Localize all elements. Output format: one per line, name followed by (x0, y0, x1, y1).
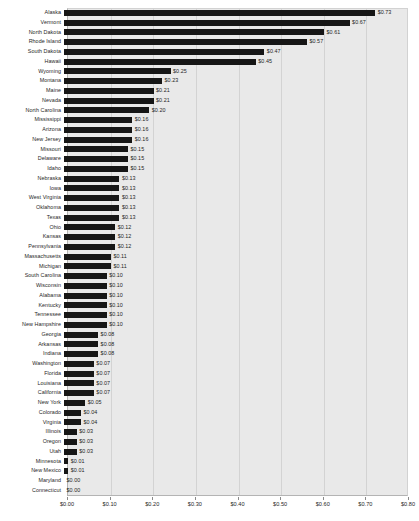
bar-cell: $0.12 (64, 223, 419, 233)
bar-row: Minnesota$0.01 (0, 457, 419, 467)
bar-cell: $0.20 (64, 106, 419, 116)
bar-row: Massachusetts$0.11 (0, 252, 419, 262)
bar-value-label: $0.25 (171, 69, 187, 74)
category-label: Washington (0, 361, 64, 366)
bar-value-label: $0.10 (107, 283, 123, 288)
bar (64, 390, 94, 396)
bar (64, 244, 115, 250)
bar (64, 234, 115, 240)
bar (64, 419, 81, 425)
bar-cell: $0.11 (64, 252, 419, 262)
bar-cell: $0.15 (64, 164, 419, 174)
bar-cell: $0.21 (64, 96, 419, 106)
bar-cell: $0.21 (64, 86, 419, 96)
bar (64, 127, 132, 133)
bar-row: New Mexico$0.01 (0, 466, 419, 476)
bar (64, 107, 149, 113)
bar (64, 254, 111, 260)
bar-row: South Dakota$0.47 (0, 47, 419, 57)
bar (64, 195, 119, 201)
category-label: Kentucky (0, 303, 64, 308)
bar-cell: $0.07 (64, 388, 419, 398)
bar-value-label: $0.01 (68, 459, 84, 464)
bar-value-label: $0.10 (107, 293, 123, 298)
category-label: Alabama (0, 293, 64, 298)
category-label: Pennsylvania (0, 244, 64, 249)
bar (64, 322, 107, 328)
bar-value-label: $0.03 (77, 439, 93, 444)
bar-row: Missouri$0.15 (0, 145, 419, 155)
bar-cell: $0.16 (64, 135, 419, 145)
category-label: Louisiana (0, 381, 64, 386)
bar (64, 20, 350, 26)
bar-row: South Carolina$0.10 (0, 271, 419, 281)
bar (64, 49, 264, 55)
bar-value-label: $0.15 (128, 166, 144, 171)
bar (64, 10, 375, 16)
bar (64, 380, 94, 386)
x-tick-mark (67, 497, 68, 500)
bar (64, 98, 154, 104)
x-axis: $0.00$0.10$0.20$0.30$0.40$0.50$0.60$0.70… (67, 497, 408, 519)
bar (64, 176, 119, 182)
x-tick-label: $0.40 (230, 502, 244, 508)
category-label: Ohio (0, 225, 64, 230)
bar-value-label: $0.45 (256, 59, 272, 64)
bar-row: Arkansas$0.08 (0, 340, 419, 350)
bar-row: New York$0.05 (0, 398, 419, 408)
bar-value-label: $0.11 (111, 264, 127, 269)
bar-value-label: $0.07 (94, 381, 110, 386)
x-tick-mark (280, 497, 281, 500)
bar-cell: $0.07 (64, 379, 419, 389)
bar-value-label: $0.13 (119, 176, 135, 181)
bar-value-label: $0.20 (149, 108, 165, 113)
bar-cell: $0.10 (64, 271, 419, 281)
category-label: West Virginia (0, 195, 64, 200)
bar-value-label: $0.07 (94, 371, 110, 376)
bar-cell: $0.10 (64, 281, 419, 291)
bar (64, 137, 132, 143)
bar-cell: $0.23 (64, 76, 419, 86)
bar-value-label: $0.03 (77, 429, 93, 434)
bar-row: Louisiana$0.07 (0, 379, 419, 389)
bar-value-label: $0.01 (68, 468, 84, 473)
category-label: Georgia (0, 332, 64, 337)
category-label: Delaware (0, 156, 64, 161)
bar-cell: $0.08 (64, 340, 419, 350)
bar (64, 224, 115, 230)
bar-row: Idaho$0.15 (0, 164, 419, 174)
bar-cell: $0.47 (64, 47, 419, 57)
category-label: Vermont (0, 20, 64, 25)
bar-value-label: $0.11 (111, 254, 127, 259)
bar-row: Montana$0.23 (0, 76, 419, 86)
category-label: North Carolina (0, 108, 64, 113)
bar-value-label: $0.07 (94, 361, 110, 366)
bar-row: Connecticut$0.00 (0, 486, 419, 496)
bar-row: Colorado$0.04 (0, 408, 419, 418)
x-tick-mark (323, 497, 324, 500)
bar-cell: $0.00 (64, 486, 419, 496)
bar (64, 263, 111, 269)
bar-row: Rhode Island$0.57 (0, 37, 419, 47)
category-label: South Carolina (0, 273, 64, 278)
bar-value-label: $0.21 (154, 88, 170, 93)
x-tick-mark (195, 497, 196, 500)
bar (64, 449, 77, 455)
bar-row: Hawaii$0.45 (0, 57, 419, 67)
bar-cell: $0.05 (64, 398, 419, 408)
category-label: Iowa (0, 186, 64, 191)
bar-row: Maryland$0.00 (0, 476, 419, 486)
bar-row: Arizona$0.16 (0, 125, 419, 135)
bar-row: Nebraska$0.13 (0, 174, 419, 184)
bar-cell: $0.73 (64, 8, 419, 18)
bar-value-label: $0.12 (115, 225, 131, 230)
bar-row: Kansas$0.12 (0, 232, 419, 242)
bar-cell: $0.13 (64, 174, 419, 184)
category-label: Florida (0, 371, 64, 376)
bar-row: Nevada$0.21 (0, 96, 419, 106)
category-label: North Dakota (0, 30, 64, 35)
bar-row: Alaska$0.73 (0, 8, 419, 18)
bar-row: Michigan$0.11 (0, 262, 419, 272)
category-label: Wisconsin (0, 283, 64, 288)
bar-cell: $0.16 (64, 125, 419, 135)
